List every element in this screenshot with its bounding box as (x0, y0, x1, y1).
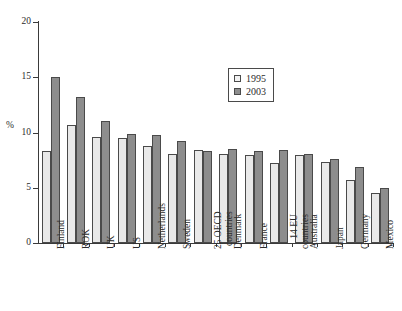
bar-1995 (245, 155, 254, 243)
legend-label: 2003 (246, 85, 266, 98)
bar-2003 (101, 121, 110, 243)
bar-1995 (92, 137, 101, 243)
bar-group (89, 22, 114, 243)
bar-2003 (127, 134, 136, 243)
bar-1995 (371, 193, 380, 243)
y-axis-tick-label: 10 (22, 128, 32, 138)
bar-1995 (118, 138, 127, 243)
y-axis-tick-label: 0 (26, 238, 31, 248)
y-axis-tick-label: 5 (26, 183, 31, 193)
x-axis-category-label: 25 OECDcountries (213, 211, 234, 249)
bar-1995 (168, 154, 177, 244)
y-axis-title: % (6, 121, 14, 131)
x-axis-category-label: Japan (335, 227, 346, 249)
dark-swatch-icon (234, 88, 241, 95)
bar-1995 (67, 125, 76, 243)
x-axis-category-label: Sweden (182, 219, 193, 249)
x-axis-category-label: 14 EUcountries (289, 214, 310, 249)
bar-1995 (42, 151, 51, 243)
bar-group (216, 22, 241, 243)
x-axis-category-label: France (259, 223, 270, 249)
x-axis-category-label: ROK (81, 229, 92, 249)
bar-2003 (76, 97, 85, 243)
x-axis-category-label: Mexico (385, 220, 396, 249)
bar-group (317, 22, 342, 243)
bar-1995 (321, 162, 330, 243)
x-axis-category-label: UK (106, 235, 117, 249)
chart-legend: 1995 2003 (228, 68, 274, 102)
bar-2003 (203, 151, 212, 243)
bar-group (368, 22, 393, 243)
bar-group (266, 22, 291, 243)
light-swatch-icon (234, 75, 241, 82)
bar-group (38, 22, 63, 243)
bar-group (63, 22, 88, 243)
plot-area: 05101520 (38, 22, 393, 243)
x-axis-category-label: Finland (56, 220, 67, 249)
y-axis-tick-label: 15 (22, 73, 32, 83)
x-axis-category-label: Australia (309, 214, 320, 249)
bar-1995 (270, 163, 279, 243)
bar-group (241, 22, 266, 243)
x-axis-category-label: Netherlands (157, 203, 168, 249)
bar-1995 (194, 150, 203, 243)
x-axis-category-label: US (132, 237, 143, 249)
bar-2003 (279, 150, 288, 243)
legend-item-2003: 2003 (234, 85, 266, 98)
bar-2003 (51, 77, 60, 243)
x-axis-category-label: Germany (360, 214, 371, 249)
legend-item-1995: 1995 (234, 72, 266, 85)
y-axis-tick-label: 20 (22, 17, 32, 27)
bar-group (165, 22, 190, 243)
bar-group (190, 22, 215, 243)
y-axis-tick (33, 243, 38, 244)
bar-group (292, 22, 317, 243)
bar-chart: % 05101520 1995 2003 FinlandROKUKUSNethe… (0, 0, 402, 311)
bar-group (342, 22, 367, 243)
bar-1995 (143, 146, 152, 243)
bar-group (114, 22, 139, 243)
legend-label: 1995 (246, 72, 266, 85)
x-axis-category-label: Denmark (233, 214, 244, 249)
bar-1995 (346, 180, 355, 243)
